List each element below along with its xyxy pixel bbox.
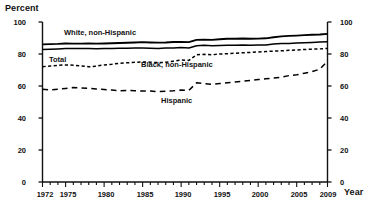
series-group xyxy=(43,34,328,92)
series-line-hispanic xyxy=(43,61,328,91)
axes-group xyxy=(39,22,332,187)
plot-svg xyxy=(0,0,379,215)
series-line-black-non-hispanic xyxy=(43,48,328,66)
chart-container: Percent Year 100 80 60 40 20 0 100 80 60… xyxy=(0,0,379,215)
